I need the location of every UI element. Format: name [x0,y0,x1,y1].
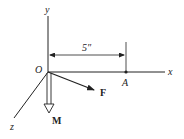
point-a-label: A [121,77,129,88]
force-vector-f [48,72,94,90]
x-axis-label: x [167,66,173,77]
moment-label: M [52,115,62,126]
z-axis-label: z [9,121,14,132]
diagram-canvas: y x z O A 5″ F M [0,0,184,139]
z-axis [14,72,48,118]
moment-vector-m [44,73,54,113]
y-axis-label: y [44,4,50,15]
force-label: F [100,87,106,98]
dimension-label: 5″ [82,42,92,53]
origin-label: O [35,64,42,75]
